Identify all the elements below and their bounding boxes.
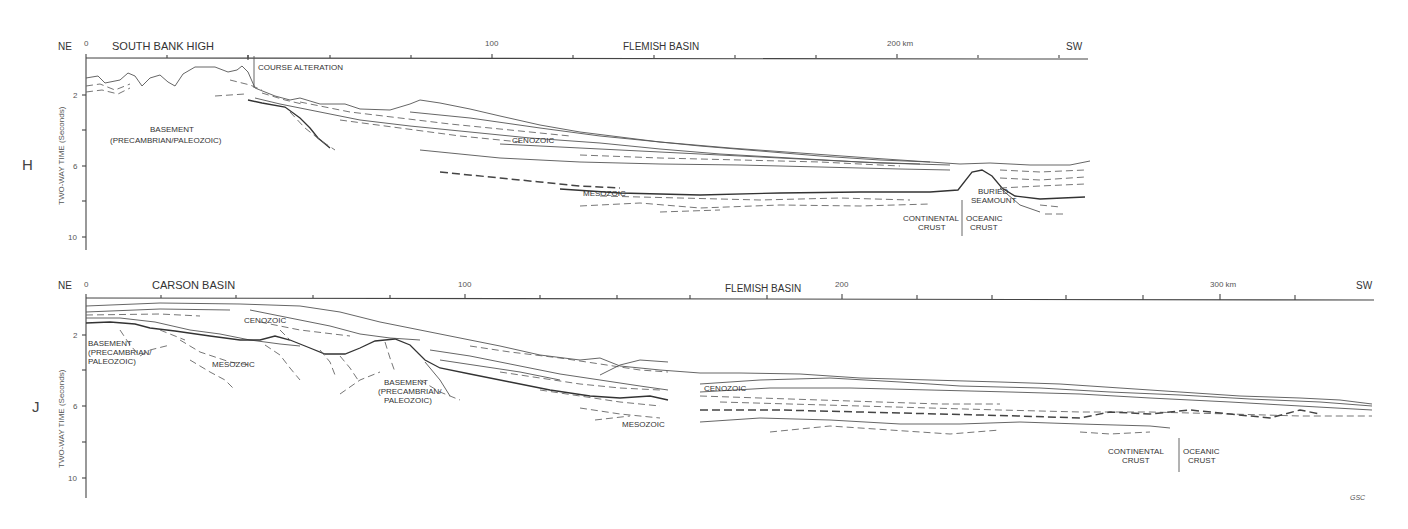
annotation-basement-j-a2: (PRECAMBRIAN/: [88, 348, 152, 357]
region-flemish-basin-h: FLEMISH BASIN: [623, 41, 699, 52]
y-tick-label-10-j: 10: [68, 474, 77, 483]
section-label-h: H: [22, 156, 33, 173]
ne-label-h: NE: [58, 41, 72, 52]
x-tick-label-300-j: 300 km: [1210, 280, 1237, 289]
annotation-oceanic-j-1: OCEANIC: [1183, 447, 1220, 456]
section-label-j: J: [32, 398, 40, 415]
x-tick-label-100-j: 100: [458, 280, 472, 289]
x-tick-label-0-j: 0: [84, 280, 89, 289]
x-tick-label-200-h: 200 km: [887, 39, 914, 48]
annotation-continental-j-2: CRUST: [1122, 456, 1150, 465]
annotation-basement-h-2: (PRECAMBRIAN/PALEOZOIC): [110, 136, 222, 145]
annotation-basement-j-a1: BASEMENT: [88, 339, 132, 348]
section-h: H NE SW SOUTH BANK HIGH FLEMISH BASIN 0 …: [22, 39, 1090, 250]
annotation-basement-j-b1: BASEMENT: [384, 378, 428, 387]
y-tick-label-2-j: 2: [73, 331, 78, 340]
annotation-basement-j-a3: PALEOZOIC): [88, 357, 136, 366]
annotation-basement-h-1: BASEMENT: [150, 125, 194, 134]
x-minor-ticks-h: [86, 54, 1059, 58]
x-axis-h: [86, 58, 1088, 59]
section-j: J NE SW CARSON BASIN FLEMISH BASIN 0: [32, 279, 1374, 498]
annotation-basement-j-b3: PALEOZOIC): [384, 396, 432, 405]
annotation-buried-1: BURIED: [978, 187, 1008, 196]
annotation-oceanic-h-2: CRUST: [970, 223, 998, 232]
ne-label-j: NE: [58, 280, 72, 291]
annotation-mesozoic-h: MESOZOIC: [583, 189, 626, 198]
annotation-cenozoic-j-1: CENOZOIC: [244, 316, 286, 325]
x-tick-label-100-h: 100: [485, 39, 499, 48]
y-axis-title-j: TWO-WAY TIME (Seconds): [57, 369, 66, 468]
y-tick-label-6-h: 6: [73, 162, 78, 171]
annotation-seamount-2: SEAMOUNT: [971, 196, 1016, 205]
credit-gsc: GSC: [1350, 494, 1366, 501]
y-axis-title-h: TWO-WAY TIME (Seconds): [57, 106, 66, 205]
annotation-oceanic-h-1: OCEANIC: [966, 214, 1003, 223]
annotation-continental-j-1: CONTINENTAL: [1108, 447, 1164, 456]
y-tick-label-10-h: 10: [68, 233, 77, 242]
x-tick-label-200-j: 200: [835, 280, 849, 289]
annotation-course-alteration: COURSE ALTERATION: [258, 63, 343, 72]
annotation-cenozoic-h: CENOZOIC: [512, 136, 554, 145]
sw-label-h: SW: [1066, 41, 1083, 52]
annotation-oceanic-j-2: CRUST: [1188, 456, 1216, 465]
region-flemish-basin-j: FLEMISH BASIN: [725, 283, 801, 294]
region-south-bank-high: SOUTH BANK HIGH: [112, 40, 214, 52]
annotation-cenozoic-j-2: CENOZOIC: [704, 384, 746, 393]
annotation-continental-h-2: CRUST: [918, 223, 946, 232]
x-tick-label-0-h: 0: [84, 39, 89, 48]
x-axis-j: [86, 298, 1374, 300]
annotation-basement-j-b2: (PRECAMBRIAN/: [378, 387, 442, 396]
y-tick-label-6-j: 6: [73, 402, 78, 411]
y-tick-label-2-h: 2: [73, 91, 78, 100]
annotation-mesozoic-j-1: MESOZOIC: [212, 360, 255, 369]
seismic-cross-sections: H NE SW SOUTH BANK HIGH FLEMISH BASIN 0 …: [0, 0, 1408, 529]
sw-label-j: SW: [1356, 280, 1373, 291]
region-carson-basin: CARSON BASIN: [152, 279, 235, 291]
annotation-continental-h-1: CONTINENTAL: [903, 214, 959, 223]
annotation-mesozoic-j-2: MESOZOIC: [622, 420, 665, 429]
